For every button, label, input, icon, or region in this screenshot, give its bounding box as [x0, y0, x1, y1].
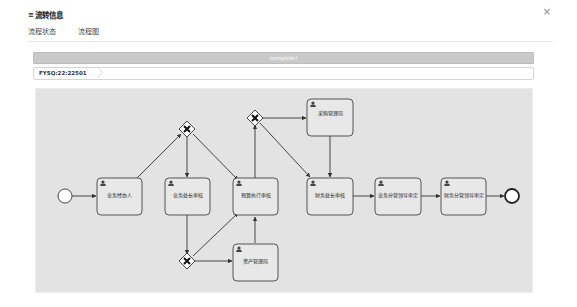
end-event[interactable] — [505, 189, 519, 203]
task-finance-leader-approval[interactable]: 财务分管领导审定 — [441, 178, 486, 215]
status-text: complete! — [270, 55, 298, 61]
task-business-leader-approval[interactable]: 业务分管领导审定 — [375, 178, 421, 215]
close-icon: × — [543, 6, 551, 17]
task-label: 财务分管领导审定 — [444, 192, 484, 199]
task-finance-director-review[interactable]: 财务处长审核 — [307, 178, 353, 215]
breadcrumb: FYSQ:22:22501 — [33, 67, 534, 80]
list-icon: ≡ — [28, 11, 33, 19]
dialog-title-text: 流转信息 — [35, 9, 63, 20]
breadcrumb-chevron-icon — [96, 67, 105, 78]
task-business-director-review[interactable]: 业务处长审核 — [165, 178, 210, 215]
tab-divider — [28, 41, 553, 42]
task-label: 业务处长审核 — [173, 192, 203, 199]
task-label: 业务经办人 — [107, 192, 132, 199]
task-budget-execution-review[interactable]: 预算执行审核 — [233, 178, 278, 215]
task-label: 采购管理岗 — [318, 110, 343, 117]
process-diagram-canvas: 业务经办人 业务处长审核 预算执行审核 资产管理岗 采购管理岗 财务处长审核 — [35, 88, 533, 293]
task-label: 业务分管领导审定 — [378, 192, 418, 199]
tab-bar: 流程状态 流程图 — [28, 26, 99, 42]
process-diagram: 业务经办人 业务处长审核 预算执行审核 资产管理岗 采购管理岗 财务处长审核 — [36, 89, 532, 292]
tab-process-diagram[interactable]: 流程图 — [78, 26, 99, 42]
task-procurement-management[interactable]: 采购管理岗 — [307, 99, 353, 136]
task-business-handler[interactable]: 业务经办人 — [97, 178, 142, 215]
task-asset-management[interactable]: 资产管理岗 — [233, 244, 278, 281]
task-label: 资产管理岗 — [243, 258, 268, 265]
breadcrumb-item[interactable]: FYSQ:22:22501 — [34, 68, 97, 79]
start-event[interactable] — [58, 189, 72, 203]
close-button[interactable]: × — [541, 6, 553, 18]
task-label: 预算执行审核 — [241, 192, 271, 199]
status-bar: complete! — [33, 52, 534, 64]
gateway-1[interactable] — [179, 121, 195, 137]
dialog-title: ≡ 流转信息 — [28, 9, 63, 20]
task-label: 财务处长审核 — [315, 192, 345, 199]
tab-process-status[interactable]: 流程状态 — [28, 26, 56, 42]
gateway-3[interactable] — [179, 253, 195, 269]
